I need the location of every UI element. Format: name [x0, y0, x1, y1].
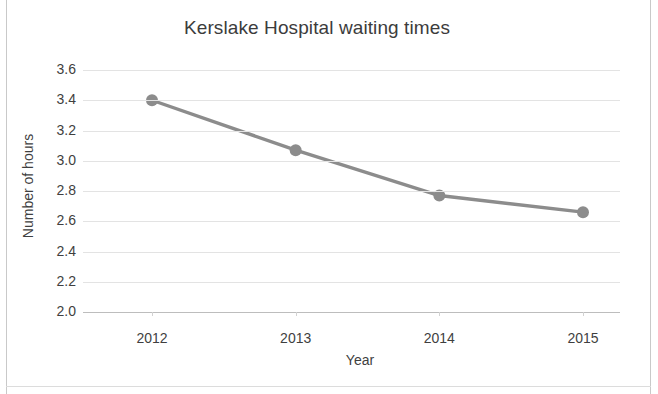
x-axis-line: [83, 312, 620, 313]
y-axis-title: Number of hours: [20, 116, 36, 256]
plot-area: [83, 70, 620, 312]
y-axis-tick-label: 3.2: [30, 122, 76, 138]
y-axis-tick-label: 2.8: [30, 182, 76, 198]
x-axis-title: Year: [315, 352, 405, 368]
page-border-right: [650, 0, 651, 394]
x-axis-tick-label: 2012: [107, 330, 197, 346]
gridline: [83, 252, 620, 253]
chart-screenshot: Kerslake Hospital waiting times 3.63.43.…: [0, 0, 658, 394]
x-axis-tick: [152, 312, 153, 316]
y-axis-tick-label: 3.0: [30, 152, 76, 168]
gridline: [83, 131, 620, 132]
y-axis-tick-label: 2.4: [30, 243, 76, 259]
data-point-marker: [290, 144, 302, 156]
gridline: [83, 221, 620, 222]
y-axis-tick-label: 2.6: [30, 212, 76, 228]
data-point-marker: [577, 206, 589, 218]
x-axis-tick: [439, 312, 440, 316]
gridline: [83, 161, 620, 162]
x-axis-tick-label: 2015: [538, 330, 628, 346]
x-axis-tick: [583, 312, 584, 316]
x-axis-tick-label: 2013: [251, 330, 341, 346]
x-axis-tick-label: 2014: [394, 330, 484, 346]
y-axis-tick-label: 2.0: [30, 303, 76, 319]
gridline: [83, 100, 620, 101]
page-border-bottom: [6, 386, 651, 387]
y-axis-tick-label: 3.4: [30, 91, 76, 107]
chart-title-text: Kerslake Hospital waiting times: [184, 17, 450, 39]
y-axis-tick-label: 3.6: [30, 61, 76, 77]
page-border-left: [6, 0, 7, 394]
y-axis-tick-label: 2.2: [30, 273, 76, 289]
gridline: [83, 282, 620, 283]
chart-title: Kerslake Hospital waiting times: [0, 17, 658, 39]
gridline: [83, 191, 620, 192]
gridline: [83, 70, 620, 71]
x-axis-tick: [296, 312, 297, 316]
